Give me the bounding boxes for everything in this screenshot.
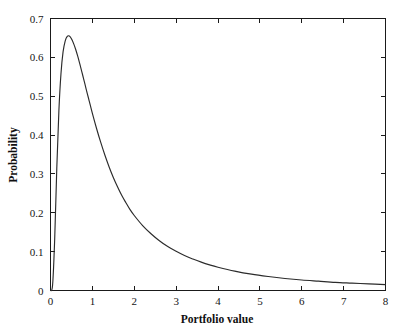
x-axis-title: Portfolio value <box>181 314 254 326</box>
x-tick-label: 0 <box>48 296 54 307</box>
data-curve-line <box>51 36 386 291</box>
x-tick-label: 8 <box>383 296 389 307</box>
y-axis-title: Probability <box>8 127 20 182</box>
x-tick-label: 4 <box>215 296 221 307</box>
x-tick-label: 5 <box>257 296 263 307</box>
y-tick-label: 0.5 <box>0 91 44 102</box>
y-tick-label: 0.2 <box>0 207 44 218</box>
y-tick-label: 0.1 <box>0 246 44 257</box>
y-tick-label: 0 <box>0 285 44 296</box>
axes-group <box>51 19 386 291</box>
axis-frame <box>51 19 386 291</box>
plot-canvas <box>0 0 404 333</box>
x-tick-label: 1 <box>90 296 96 307</box>
x-tick-label: 3 <box>173 296 179 307</box>
y-tick-label: 0.6 <box>0 52 44 63</box>
ticks-group <box>51 19 386 291</box>
y-tick-label: 0.7 <box>0 13 44 24</box>
figure-container: 012345678 00.10.20.30.40.50.60.7 Portfol… <box>0 0 404 333</box>
x-tick-label: 2 <box>132 296 138 307</box>
x-tick-label: 7 <box>341 296 347 307</box>
x-tick-label: 6 <box>299 296 305 307</box>
